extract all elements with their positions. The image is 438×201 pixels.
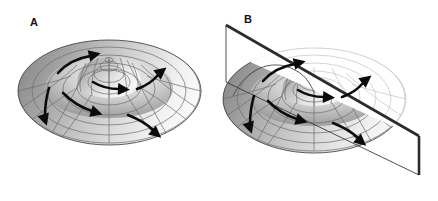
panel-a-illustration	[0, 0, 219, 201]
panel-b: B	[219, 0, 438, 201]
panel-b-illustration	[219, 0, 438, 201]
panel-a: A	[0, 0, 219, 201]
figure-root: A	[0, 0, 438, 201]
